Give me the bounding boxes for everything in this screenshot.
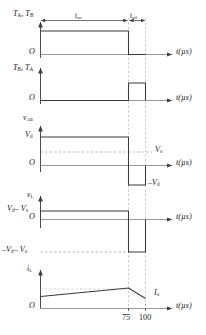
level-label-vd: Vd <box>25 130 33 139</box>
t-axis-label-panel4: t(µs) <box>176 212 192 221</box>
t-axis-label-panel5: t(µs) <box>176 301 192 310</box>
tick-label-100: 100 <box>139 313 151 322</box>
level-label-neg-vd: –Vd <box>148 178 160 187</box>
t-on-label: ton <box>75 12 81 20</box>
origin-label-panel2: O <box>29 93 35 102</box>
t-axis-label-panel3: t(µs) <box>176 158 192 167</box>
level-label-vd-minus-vo: Vd– Vo <box>7 204 28 213</box>
panel-v-l <box>41 196 173 252</box>
waveform-trace <box>41 288 146 299</box>
y-label-v-l: vL <box>27 190 33 199</box>
time-gridline-group <box>129 18 146 312</box>
origin-label-panel5: O <box>29 301 35 310</box>
t-axis-label-panel1: t(µs) <box>176 47 192 56</box>
origin-label-panel4: O <box>29 212 35 221</box>
y-label-gate-ta-tb: TA, TB <box>13 9 33 18</box>
t-axis-label-panel2: t(µs) <box>176 93 192 102</box>
t-off-label: toff <box>130 12 137 20</box>
waveform-trace <box>41 83 146 101</box>
origin-label-panel3: O <box>29 158 35 167</box>
level-label-neg-vd-minus-vo: –Vd– Vo <box>2 245 27 254</box>
y-label-i-l: iL <box>27 264 32 273</box>
waveform-trace <box>41 211 146 252</box>
y-label-v-ab: vAB <box>23 113 33 122</box>
panel-v-ab <box>41 126 173 185</box>
level-label-vo: Vo <box>155 145 163 154</box>
tick-label-75: 75 <box>122 313 130 322</box>
panel-gate-ta-tb <box>41 21 173 59</box>
waveform-trace <box>41 137 146 185</box>
level-label-io: Io <box>154 288 159 297</box>
origin-label-panel1: O <box>29 47 35 56</box>
panel-i-l <box>41 270 173 311</box>
y-label-gate-tb-ta: TB, TA <box>13 63 33 72</box>
waveform-trace <box>41 31 146 55</box>
panel-gate-tb-ta <box>41 68 173 104</box>
